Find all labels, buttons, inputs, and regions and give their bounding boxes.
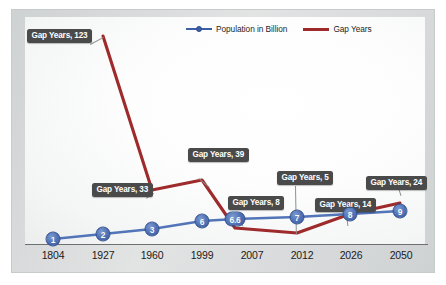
x-axis-labels: 1804 1927 1960 1999 2007 2012 2026 2050 (25, 249, 425, 267)
x-tick-1999: 1999 (191, 249, 214, 261)
population-marker: 3 (145, 222, 160, 237)
legend-line-icon (303, 25, 329, 34)
callout-gap-years-123: Gap Years, 123 (27, 29, 92, 43)
x-tick-1960: 1960 (141, 249, 164, 261)
legend-line-marker-icon (186, 25, 212, 34)
callout-gap-years-8: Gap Years, 8 (228, 196, 284, 210)
population-marker: 9 (393, 204, 408, 219)
x-tick-1927: 1927 (92, 249, 115, 261)
callout-gap-years-33: Gap Years, 33 (92, 183, 153, 197)
x-tick-2050: 2050 (390, 249, 413, 261)
x-tick-2007: 2007 (241, 249, 264, 261)
legend-item-gap-years[interactable]: Gap Years (303, 24, 371, 34)
population-marker: 2 (96, 227, 111, 242)
x-tick-2012: 2012 (291, 249, 314, 261)
chart-legend: Population in Billion Gap Years (186, 24, 372, 34)
x-tick-1804: 1804 (42, 249, 65, 261)
legend-label-population: Population in Billion (216, 24, 287, 34)
population-marker: 7 (290, 210, 305, 225)
chart-container: Population in Billion Gap Years Gap Year… (0, 0, 446, 285)
legend-item-population[interactable]: Population in Billion (186, 24, 287, 34)
callout-gap-years-24: Gap Years, 24 (366, 176, 427, 190)
population-marker: 8 (343, 207, 358, 222)
population-marker: 1 (46, 232, 61, 247)
callout-gap-years-5: Gap Years, 5 (277, 171, 333, 185)
population-marker: 6.6 (225, 212, 246, 227)
callout-gap-years-39: Gap Years, 39 (188, 148, 249, 162)
population-marker: 6 (195, 214, 210, 229)
legend-label-gap-years: Gap Years (333, 24, 371, 34)
x-axis-line (25, 244, 428, 245)
x-tick-2026: 2026 (340, 249, 363, 261)
